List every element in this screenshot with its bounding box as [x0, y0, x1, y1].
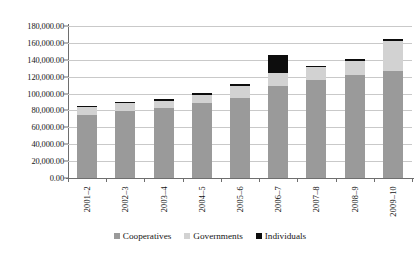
bar-2002–3[interactable] [115, 102, 135, 178]
bar-segment-governments[interactable] [383, 41, 403, 71]
x-axis-tick-label: 2002–3 [121, 186, 130, 212]
x-axis-tick-mark [297, 178, 298, 182]
x-axis-tick-mark [221, 178, 222, 182]
bar-segment-governments[interactable] [268, 73, 288, 85]
bar-2004–5[interactable] [192, 93, 212, 178]
legend-item-individuals[interactable]: Individuals [256, 231, 306, 241]
y-axis-tick-label: 160,000.00 [27, 38, 64, 47]
y-axis-tick-label: 80,000.00 [31, 106, 64, 115]
x-axis-tick-label: 2008–9 [351, 186, 360, 212]
gridline [68, 26, 412, 27]
legend-swatch-icon [256, 233, 262, 239]
bar-2003–4[interactable] [154, 99, 174, 178]
x-axis-tick-mark [336, 178, 337, 182]
bar-2009–10[interactable] [383, 39, 403, 178]
x-axis-tick-mark [106, 178, 107, 182]
legend-swatch-icon [184, 233, 190, 239]
x-axis-line [66, 178, 414, 179]
bar-segment-cooperatives[interactable] [383, 71, 403, 178]
x-axis-tick-mark [183, 178, 184, 182]
legend-label: Governments [193, 231, 243, 241]
x-axis-tick-label: 2003–4 [160, 186, 169, 212]
bar-segment-cooperatives[interactable] [268, 86, 288, 178]
plot-area [68, 26, 412, 178]
legend-item-governments[interactable]: Governments [184, 231, 243, 241]
x-axis-tick-label: 2009–10 [389, 186, 398, 217]
y-axis-tick-label: 40,000.00 [31, 140, 64, 149]
bar-segment-governments[interactable] [306, 67, 326, 80]
y-axis-tick-label: 100,000.00 [27, 89, 64, 98]
bar-segment-cooperatives[interactable] [192, 103, 212, 178]
x-axis-tick-mark [374, 178, 375, 182]
bar-segment-governments[interactable] [77, 107, 97, 115]
bar-segment-cooperatives[interactable] [306, 80, 326, 178]
bar-segment-cooperatives[interactable] [230, 98, 250, 178]
x-axis-tick-label: 2007–8 [312, 186, 321, 212]
gridline [68, 43, 412, 44]
legend-label: Individuals [265, 231, 306, 241]
y-axis-tick-label: 60,000.00 [31, 123, 64, 132]
x-axis-tick-label: 2005–6 [236, 186, 245, 212]
y-axis-tick-label: 120,000.00 [27, 72, 64, 81]
bar-segment-individuals[interactable] [268, 55, 288, 73]
chart-legend: CooperativesGovernmentsIndividuals [0, 231, 420, 241]
bar-segment-cooperatives[interactable] [77, 115, 97, 178]
stacked-bar-chart: 0.0020,000.0040,000.0060,000.0080,000.00… [0, 0, 420, 259]
x-axis-tick-mark [68, 178, 69, 182]
legend-label: Cooperatives [123, 231, 171, 241]
bar-2005–6[interactable] [230, 84, 250, 178]
bar-2008–9[interactable] [345, 59, 365, 178]
bar-segment-governments[interactable] [154, 101, 174, 108]
bar-segment-governments[interactable] [192, 95, 212, 103]
x-axis-tick-mark [412, 178, 413, 182]
y-axis-tick-label: 20,000.00 [31, 157, 64, 166]
y-axis-tick-label: 0.00 [50, 174, 64, 183]
bar-2006–7[interactable] [268, 55, 288, 178]
legend-swatch-icon [114, 233, 120, 239]
bar-segment-governments[interactable] [115, 103, 135, 111]
y-axis: 0.0020,000.0040,000.0060,000.0080,000.00… [0, 0, 64, 259]
legend-item-cooperatives[interactable]: Cooperatives [114, 231, 171, 241]
y-axis-tick-label: 140,000.00 [27, 55, 64, 64]
x-axis-tick-label: 2001–2 [83, 186, 92, 212]
bar-segment-governments[interactable] [345, 61, 365, 75]
x-axis-tick-label: 2006–7 [274, 186, 283, 212]
bar-segment-cooperatives[interactable] [345, 75, 365, 178]
bar-segment-cooperatives[interactable] [115, 111, 135, 178]
y-axis-tick-label: 180,000.00 [27, 22, 64, 31]
x-axis-tick-label: 2004–5 [198, 186, 207, 212]
bar-segment-cooperatives[interactable] [154, 108, 174, 179]
bar-2001–2[interactable] [77, 106, 97, 178]
bar-segment-governments[interactable] [230, 86, 250, 98]
x-axis-tick-mark [144, 178, 145, 182]
bar-2007–8[interactable] [306, 66, 326, 178]
x-axis-tick-mark [259, 178, 260, 182]
